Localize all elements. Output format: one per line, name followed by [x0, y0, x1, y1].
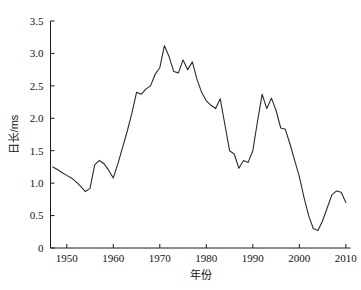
line-chart-svg: 00.51.01.52.02.53.03.5 19501960197019801… [0, 0, 361, 290]
y-tick-label: 2.5 [30, 80, 44, 92]
y-tick-label: 0 [38, 242, 44, 254]
x-tick-label: 2000 [288, 252, 311, 264]
y-axis-title: 日长/ms [8, 114, 20, 154]
x-tick-label: 1960 [102, 252, 125, 264]
x-tick-label: 2010 [335, 252, 358, 264]
y-tick-label: 3.5 [30, 15, 44, 27]
x-tick-label: 1980 [195, 252, 218, 264]
y-tick-label: 3.0 [30, 47, 44, 59]
x-axis-tick-labels: 1950196019701980199020002010 [56, 252, 358, 264]
x-axis-title: 年份 [190, 268, 212, 281]
y-tick-label: 0.5 [30, 209, 44, 221]
y-tick-label: 1.0 [30, 177, 44, 189]
x-tick-label: 1990 [242, 252, 265, 264]
y-tick-label: 2.0 [30, 112, 44, 124]
data-series-line [53, 46, 346, 231]
y-axis-tick-labels: 00.51.01.52.02.53.03.5 [30, 15, 44, 254]
chart-figure: 00.51.01.52.02.53.03.5 19501960197019801… [0, 0, 361, 290]
x-tick-label: 1950 [56, 252, 79, 264]
x-tick-label: 1970 [149, 252, 172, 264]
y-tick-label: 1.5 [30, 145, 44, 157]
axis-tick-marks [51, 21, 346, 248]
